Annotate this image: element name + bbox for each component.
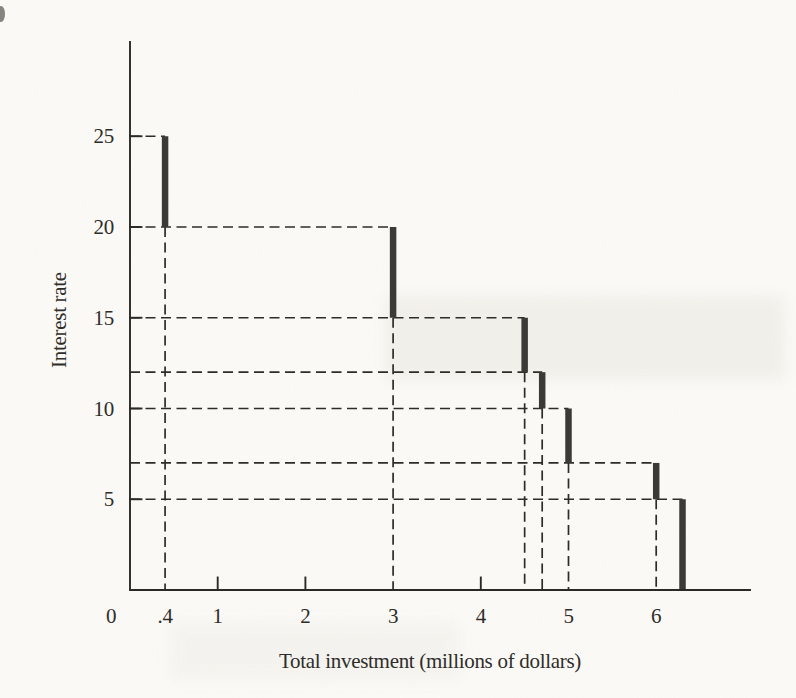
x-tick-label-0: 0 <box>106 604 116 628</box>
y-tick-label-25: 25 <box>94 124 114 148</box>
investment-demand-chart: 5101520250.4123456 Interest rate Total i… <box>0 0 796 698</box>
x-axis-title: Total investment (millions of dollars) <box>279 649 581 673</box>
x-tick-label-1: 1 <box>213 604 223 628</box>
x-tick-label-3: 3 <box>388 604 398 628</box>
x-tick-label-.4: .4 <box>158 604 174 628</box>
y-tick-label-10: 10 <box>94 397 114 421</box>
x-tick-label-6: 6 <box>651 604 661 628</box>
scan-grain-overlay <box>0 0 796 698</box>
y-tick-label-20: 20 <box>94 215 114 239</box>
x-tick-label-4: 4 <box>476 604 487 628</box>
x-tick-label-5: 5 <box>563 604 573 628</box>
y-axis-title: Interest rate <box>47 272 71 368</box>
x-tick-label-2: 2 <box>300 604 310 628</box>
y-tick-label-15: 15 <box>94 306 114 330</box>
y-tick-label-5: 5 <box>104 487 114 511</box>
